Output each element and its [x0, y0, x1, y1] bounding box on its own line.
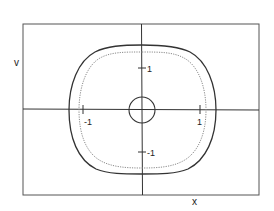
vertical-axis: [142, 24, 143, 195]
tick-label-x-neg: -1: [84, 117, 92, 127]
axis-label-v: v: [14, 57, 19, 68]
tick-label-x-pos: 1: [197, 117, 202, 127]
phase-diagram: -1 1 1 -1 v x: [0, 0, 274, 211]
tick-label-y-neg: -1: [147, 148, 155, 158]
tick-label-y-pos: 1: [147, 64, 152, 74]
horizontal-axis: [23, 109, 259, 110]
axis-label-x: x: [192, 196, 197, 207]
diagram-canvas: -1 1 1 -1 v x: [0, 0, 274, 211]
